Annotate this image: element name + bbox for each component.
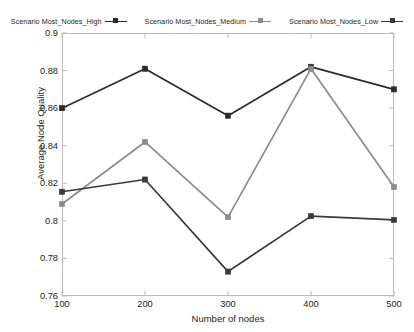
x-tick-label: 200 <box>120 299 170 309</box>
x-tick-label: 300 <box>203 299 253 309</box>
x-axis-label: Number of nodes <box>62 313 394 324</box>
x-axis-ticks: 100200300400500 <box>0 0 414 332</box>
x-tick-label: 400 <box>286 299 336 309</box>
x-tick-label: 500 <box>369 299 414 309</box>
chart-figure: Scenario Most_Nodes_High Scenario Most_N… <box>0 0 414 332</box>
x-tick-label: 100 <box>37 299 87 309</box>
